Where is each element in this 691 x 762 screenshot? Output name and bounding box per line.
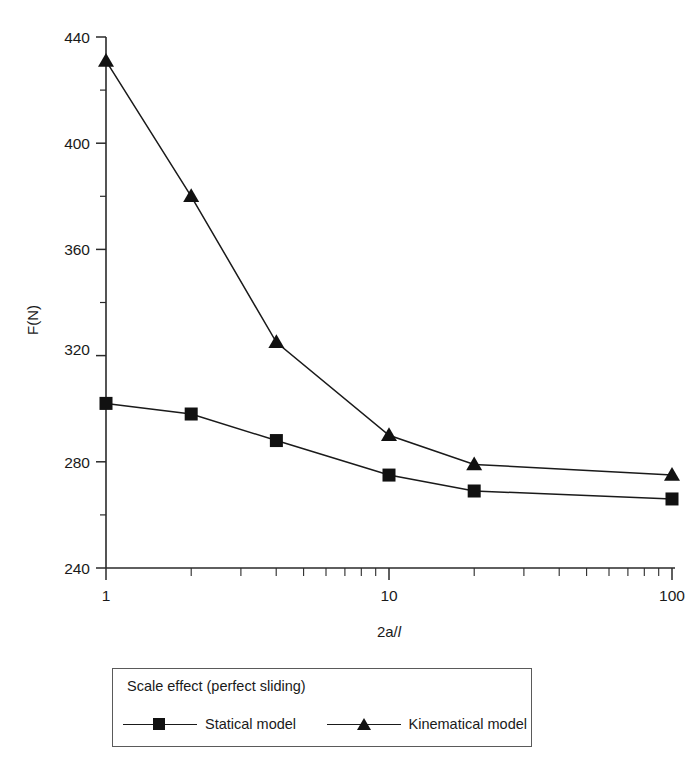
chart-figure: 440 400 320 360 280 240 1 10 100 F(N) 2a… bbox=[0, 0, 691, 762]
legend-label-statical: Statical model bbox=[205, 716, 296, 732]
data-point bbox=[466, 456, 482, 470]
y-axis-title: F(N) bbox=[24, 305, 41, 335]
data-point bbox=[270, 434, 283, 447]
chart-plot-area: 440 400 320 360 280 240 1 10 100 F(N) 2a… bbox=[0, 0, 691, 762]
x-axis-title-plain: 2a/ bbox=[377, 623, 399, 640]
data-point bbox=[100, 397, 113, 410]
series-markers-statical bbox=[100, 397, 679, 506]
y-tick-label-240: 240 bbox=[64, 560, 90, 577]
legend-entry-kinematical: Kinematical model bbox=[327, 716, 527, 732]
triangle-marker-icon bbox=[327, 716, 401, 732]
x-tick-label-100: 100 bbox=[659, 587, 685, 604]
y-tick-label-400: 400 bbox=[64, 135, 90, 152]
data-point bbox=[268, 334, 284, 348]
legend-entries: Statical model Kinematical model bbox=[123, 710, 527, 738]
data-point bbox=[664, 467, 680, 481]
data-point bbox=[468, 485, 481, 498]
x-axis-title-italic: l bbox=[398, 623, 402, 640]
square-marker-icon bbox=[123, 716, 197, 732]
y-minor-ticks bbox=[100, 90, 106, 515]
data-point bbox=[98, 53, 114, 67]
x-tick-label-10: 10 bbox=[380, 587, 398, 604]
x-axis-title: 2a/l bbox=[377, 623, 402, 640]
legend-label-kinematical: Kinematical model bbox=[409, 716, 527, 732]
y-tick-label-280: 280 bbox=[64, 454, 90, 471]
legend-entry-statical: Statical model bbox=[123, 716, 327, 732]
y-tick-label-360: 360 bbox=[64, 241, 90, 258]
data-point bbox=[185, 408, 198, 421]
data-point bbox=[183, 188, 199, 202]
x-minor-ticks bbox=[191, 568, 659, 576]
data-point bbox=[383, 469, 396, 482]
data-point bbox=[666, 492, 679, 505]
x-tick-label-1: 1 bbox=[102, 587, 111, 604]
chart-legend: Scale effect (perfect sliding) Statical … bbox=[112, 668, 532, 747]
y-tick-label-440: 440 bbox=[64, 29, 90, 46]
legend-title: Scale effect (perfect sliding) bbox=[127, 678, 306, 694]
data-point bbox=[381, 427, 397, 441]
y-tick-label-320: 320 bbox=[64, 341, 90, 358]
